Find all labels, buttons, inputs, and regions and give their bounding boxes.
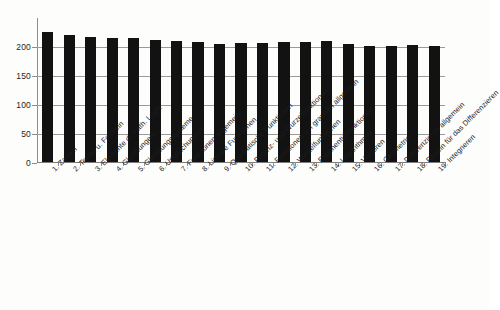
x-axis-labels: 1. Zahlen2. Terme u. Formeln3. Elemente … (0, 163, 489, 310)
y-axis-tick (32, 47, 37, 48)
y-axis-tick (32, 134, 37, 135)
y-axis-tick (32, 76, 37, 77)
y-axis-tick (32, 105, 37, 106)
y-axis-labels: 050100150200 (0, 18, 31, 163)
bar (42, 32, 53, 163)
y-axis-tick-label: 200 (16, 42, 31, 52)
y-axis-tick-label: 150 (16, 71, 31, 81)
y-axis-line (37, 18, 38, 163)
bar (64, 35, 75, 162)
y-axis-tick-label: 100 (16, 100, 31, 110)
y-axis-tick-label: 50 (21, 129, 31, 139)
